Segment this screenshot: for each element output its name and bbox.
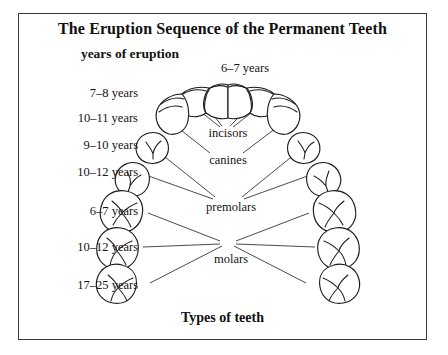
type-label-molars: molars [214,252,248,267]
teeth-arch-illustration [0,0,448,355]
age-label-lateral-incisors: 7–8 years [90,86,138,101]
age-label-second-premolars: 10–12 years [77,165,138,180]
type-label-premolars: premolars [206,200,256,215]
age-label-first-molars: 6–7 years [90,204,138,219]
second-premolar-teeth [115,163,341,197]
age-label-first-premolars: 9–10 years [84,138,139,153]
diagram-page: The Eruption Sequence of the Permanent T… [0,0,448,355]
type-label-canines: canines [209,153,246,168]
age-label-incisors-top: 6–7 years [190,61,300,76]
age-label-canines: 10–11 years [78,111,138,126]
type-label-incisors: incisors [209,126,248,141]
age-label-second-molars: 10–12 years [77,240,138,255]
incisor-teeth [180,84,276,119]
age-label-third-molars: 17–25 years [77,278,138,293]
